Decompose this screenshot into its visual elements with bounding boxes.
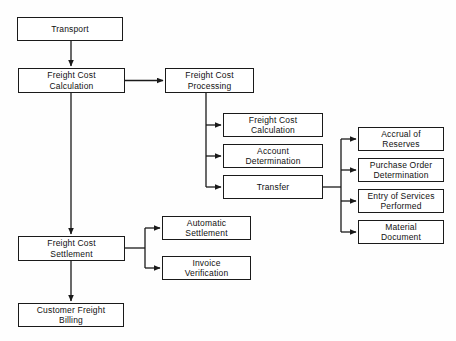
node-customer-freight-billing[interactable]: Customer FreightBilling [18, 303, 124, 327]
node-material-document[interactable]: MaterialDocument [358, 220, 444, 244]
node-freight-cost-settlement-label: Freight CostSettlement [21, 238, 122, 259]
node-entry-of-services-performed-label: Entry of ServicesPerformed [361, 191, 441, 212]
node-account-determination[interactable]: AccountDetermination [223, 144, 323, 168]
node-freight-cost-calculation-main[interactable]: Freight CostCalculation [18, 68, 125, 93]
node-invoice-verification-label: InvoiceVerification [165, 258, 248, 279]
node-transport[interactable]: Transport [17, 17, 123, 41]
node-freight-cost-calculation-sub[interactable]: Freight CostCalculation [223, 113, 323, 137]
node-account-determination-label: AccountDetermination [226, 146, 320, 167]
node-freight-cost-processing[interactable]: Freight CostProcessing [165, 68, 254, 93]
node-freight-cost-settlement[interactable]: Freight CostSettlement [18, 236, 125, 261]
node-freight-cost-calculation-main-label: Freight CostCalculation [21, 70, 122, 91]
node-automatic-settlement[interactable]: AutomaticSettlement [162, 216, 251, 240]
node-transfer-label: Transfer [226, 182, 320, 193]
node-freight-cost-processing-label: Freight CostProcessing [168, 70, 251, 91]
flowchart-canvas: Transport Freight CostCalculation Freigh… [0, 0, 456, 341]
node-customer-freight-billing-label: Customer FreightBilling [21, 305, 121, 326]
node-purchase-order-determination[interactable]: Purchase OrderDetermination [358, 158, 444, 182]
node-accrual-of-reserves-label: Accrual ofReserves [361, 129, 441, 150]
node-freight-cost-calculation-sub-label: Freight CostCalculation [226, 115, 320, 136]
node-transfer[interactable]: Transfer [223, 175, 323, 199]
node-automatic-settlement-label: AutomaticSettlement [165, 218, 248, 239]
node-material-document-label: MaterialDocument [361, 222, 441, 243]
node-entry-of-services-performed[interactable]: Entry of ServicesPerformed [358, 189, 444, 213]
node-purchase-order-determination-label: Purchase OrderDetermination [361, 160, 441, 181]
node-transport-label: Transport [20, 24, 120, 35]
node-invoice-verification[interactable]: InvoiceVerification [162, 256, 251, 280]
node-accrual-of-reserves[interactable]: Accrual ofReserves [358, 127, 444, 151]
